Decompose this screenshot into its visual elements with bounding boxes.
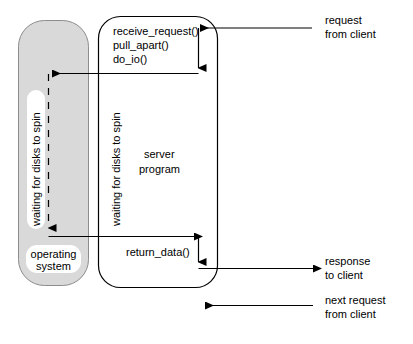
diagram-canvas: waiting for disks to spin waiting for di…: [0, 0, 413, 344]
annotation-request-from-client-line1: request: [325, 14, 362, 27]
server-call-do-io: do_io(): [113, 52, 147, 66]
annotation-request-from-client-line2: from client: [325, 28, 376, 41]
annotation-response-to-client-line1: response: [325, 255, 370, 268]
annotation-next-request-line1: next request: [325, 294, 386, 307]
operating-system-label: operating system: [26, 245, 81, 273]
server-call-pull-apart: pull_apart(): [113, 38, 169, 52]
server-program-label-line1: server: [144, 148, 175, 161]
diagram-vector-layer: [0, 0, 413, 344]
server-call-return-data: return_data(): [126, 245, 190, 259]
server-call-receive-request: receive_request(): [113, 24, 199, 38]
os-waiting-label: waiting for disks to spin: [30, 112, 42, 226]
annotation-response-to-client-line2: to client: [325, 269, 363, 282]
operating-system-label-line2: system: [26, 260, 81, 272]
server-program-label-line2: program: [139, 163, 180, 176]
operating-system-label-line1: operating: [26, 248, 81, 260]
server-waiting-label: waiting for disks to spin: [110, 112, 122, 226]
annotation-next-request-line2: from client: [325, 308, 376, 321]
